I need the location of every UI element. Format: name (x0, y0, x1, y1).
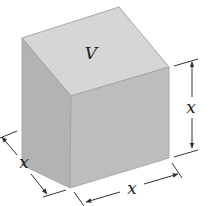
volume-label: V (85, 43, 99, 63)
width-label: x (127, 178, 137, 198)
cube-diagram: V x x x (0, 0, 212, 206)
depth-label: x (19, 152, 29, 172)
height-label: x (186, 97, 196, 117)
